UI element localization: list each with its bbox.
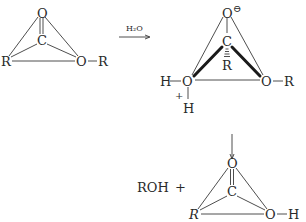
byproduct-roh: ROH xyxy=(137,180,169,195)
bond-c-r xyxy=(200,196,227,210)
atom-o-right: O xyxy=(76,54,87,69)
atom-o-top: O xyxy=(227,156,238,171)
atom-o-right: O xyxy=(265,207,276,222)
positive-charge-icon: + xyxy=(175,90,183,101)
plus-sign: + xyxy=(175,180,186,195)
wedge-bond-left xyxy=(194,47,222,76)
reactant-molecule: O C R O R xyxy=(1,6,109,69)
bond-o-oright xyxy=(231,17,263,75)
atom-h-left: H xyxy=(160,74,171,89)
reaction-arrow: H₂O xyxy=(119,24,150,39)
reagent-label: H₂O xyxy=(126,24,143,33)
atom-r-sub: R xyxy=(98,54,109,69)
atom-c: C xyxy=(222,34,232,49)
atom-h-below: H xyxy=(183,101,194,116)
atom-r-below: R xyxy=(222,58,233,73)
atom-o-left: O xyxy=(182,74,193,89)
atom-c: C xyxy=(227,184,237,199)
bond-o-r xyxy=(9,17,38,56)
atom-r-left: R xyxy=(1,54,12,69)
reaction-diagram: O C R O R H₂O O ⊖ C R xyxy=(0,0,306,222)
bond-o-oleft xyxy=(192,17,223,75)
atom-c: C xyxy=(37,33,47,48)
atom-o-right: O xyxy=(261,74,272,89)
atom-r-sub: R xyxy=(284,74,295,89)
atom-o-top: O xyxy=(37,6,48,21)
negative-charge-icon: ⊖ xyxy=(233,3,241,14)
intermediate-molecule: O ⊖ C R H O + H O R xyxy=(160,3,295,116)
product-byproduct: ROH + xyxy=(137,180,186,195)
atom-o-top: O xyxy=(222,6,233,21)
product-molecule: O C R O H xyxy=(188,156,299,222)
atom-r-left: R xyxy=(188,207,199,222)
bond-c-o xyxy=(47,44,76,57)
hashed-bond xyxy=(224,49,230,57)
atom-h-sub: H xyxy=(288,207,299,222)
bond-c-r xyxy=(11,44,37,57)
bond-c-o xyxy=(237,196,265,210)
